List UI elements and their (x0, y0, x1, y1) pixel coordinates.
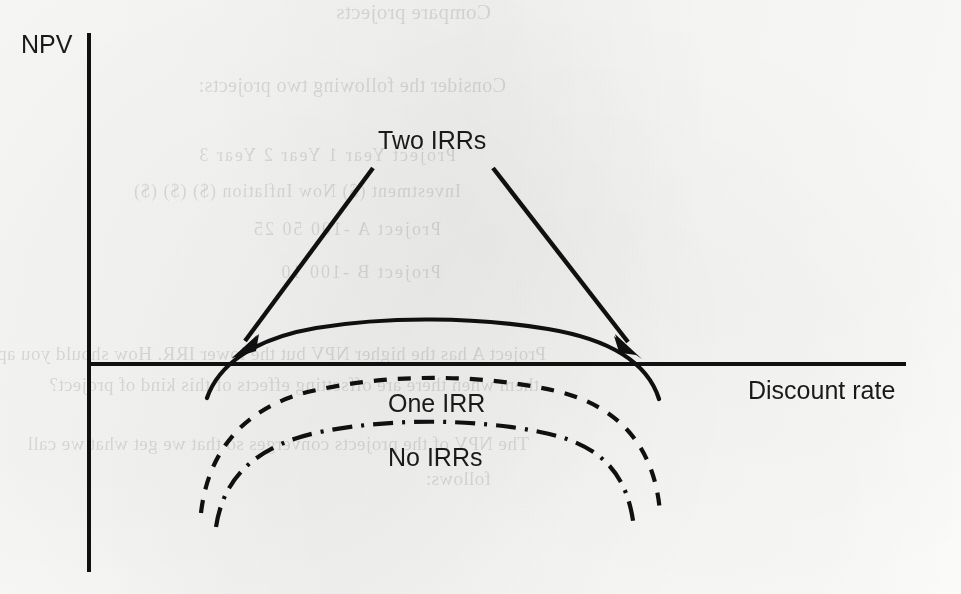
y-axis-label: NPV (21, 32, 72, 57)
arrow-down-right-icon (493, 168, 642, 359)
x-axis-label: Discount rate (748, 378, 895, 403)
curve-two-irrs (207, 319, 659, 399)
scanned-page: Compare projects Consider the following … (0, 0, 961, 594)
annotation-one-irr: One IRR (388, 391, 485, 416)
annotation-two-irrs: Two IRRs (378, 128, 486, 153)
npv-profile-diagram (0, 0, 961, 594)
annotation-no-irrs: No IRRs (388, 445, 482, 470)
curve-no-irrs (216, 422, 634, 528)
